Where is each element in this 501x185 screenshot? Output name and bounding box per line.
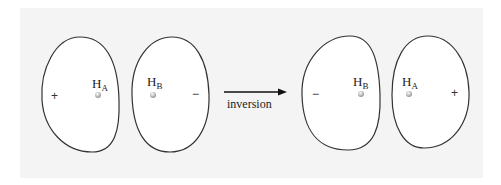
inversion-diagram: + HA HB − inversion − HB HA + [0, 0, 501, 185]
sign-plus: + [451, 86, 458, 100]
atom-hb-icon [150, 92, 156, 98]
before-right-lobe: HB − [132, 37, 209, 152]
inversion-arrow: inversion [224, 89, 287, 112]
sign-plus: + [51, 89, 58, 103]
before-left-lobe: + HA [42, 37, 119, 152]
after-right-lobe: HA + [392, 36, 469, 148]
atom-ha-icon [95, 92, 101, 98]
atom-ha-icon [406, 91, 412, 97]
arrow-head-icon [278, 89, 287, 96]
operation-label: inversion [227, 97, 272, 111]
atom-hb-icon [358, 91, 364, 97]
after-left-lobe: − HB [302, 36, 380, 150]
sign-minus: − [312, 87, 319, 101]
sign-minus: − [192, 87, 199, 101]
